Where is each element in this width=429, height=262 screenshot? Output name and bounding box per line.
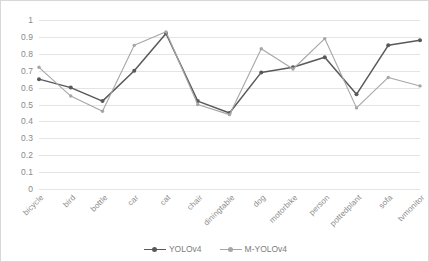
y-axis-tick-label: 0.2: [21, 150, 33, 160]
data-point: [386, 43, 390, 47]
x-axis-tick-label: car: [126, 193, 140, 207]
plot-area: [39, 20, 420, 189]
data-point: [260, 47, 263, 50]
x-axis: bicyclebirdbottlecarcatchairdiningtabled…: [39, 189, 420, 239]
legend-label: YOLOv4: [169, 244, 202, 254]
x-axis-tick-label: chair: [185, 193, 204, 212]
data-point: [133, 44, 136, 47]
y-axis-tick-label: 1: [28, 15, 33, 25]
data-point: [323, 37, 326, 40]
x-axis-tick-label: tvmonitor: [396, 193, 426, 223]
series-line: [39, 32, 420, 115]
y-axis-tick-label: 0.1: [21, 167, 33, 177]
series-1: [37, 32, 422, 115]
y-axis-tick-label: 0.7: [21, 66, 33, 76]
data-point: [355, 92, 359, 96]
x-axis-tick-label: sofa: [377, 193, 394, 210]
legend-entry-2[interactable]: M-YOLOv4: [220, 244, 288, 254]
chart-legend: YOLOv4M-YOLOv4: [1, 239, 429, 259]
chart-figure: 10.90.80.70.60.50.40.30.20.10 bicyclebir…: [0, 0, 429, 262]
data-point: [37, 66, 40, 69]
x-axis-tick-label: pottedplant: [328, 193, 363, 228]
data-point: [69, 86, 73, 90]
data-point: [418, 84, 421, 87]
data-point: [387, 76, 390, 79]
data-point: [196, 103, 199, 106]
y-axis: 10.90.80.70.60.50.40.30.20.10: [1, 1, 39, 211]
data-point: [101, 110, 104, 113]
legend-label: M-YOLOv4: [245, 244, 288, 254]
x-axis-tick-label: diningtable: [201, 193, 236, 228]
y-axis-tick-label: 0.6: [21, 83, 33, 93]
data-point: [101, 99, 105, 103]
x-axis-tick-label: motorbike: [268, 193, 300, 225]
x-axis-tick-label: person: [307, 193, 331, 217]
y-axis-tick-label: 0.4: [21, 116, 33, 126]
data-point: [355, 106, 358, 109]
data-point: [132, 69, 136, 73]
series-lines: [39, 20, 420, 189]
y-axis-tick-label: 0: [28, 184, 33, 194]
y-axis-tick-label: 0.9: [21, 32, 33, 42]
x-axis-tick-label: cat: [158, 193, 172, 207]
data-point: [259, 70, 263, 74]
data-point: [228, 113, 231, 116]
x-axis-tick-label: bottle: [88, 193, 109, 214]
x-axis-tick-label: dog: [252, 193, 268, 209]
y-axis-tick-label: 0.3: [21, 133, 33, 143]
data-point: [37, 77, 41, 81]
data-point: [69, 94, 72, 97]
data-point: [164, 30, 167, 33]
data-point: [418, 38, 422, 42]
x-axis-tick-label: bird: [61, 193, 77, 209]
legend-marker-icon: [144, 245, 166, 253]
legend-entry-1[interactable]: YOLOv4: [144, 244, 202, 254]
data-point: [291, 67, 294, 70]
series-2: [37, 30, 421, 116]
legend-marker-icon: [220, 245, 242, 253]
data-point: [323, 55, 327, 59]
y-axis-tick-label: 0.5: [21, 100, 33, 110]
y-axis-tick-label: 0.8: [21, 49, 33, 59]
